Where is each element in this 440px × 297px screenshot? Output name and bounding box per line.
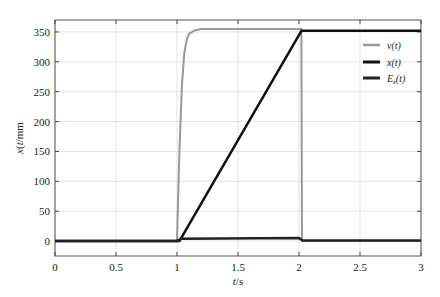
x-axis-label: t/s — [233, 275, 243, 287]
y-tick-label: 200 — [34, 116, 51, 128]
x-tick-label: 0 — [52, 261, 58, 273]
y-tick-label: 300 — [34, 56, 51, 68]
y-tick-label: 150 — [34, 145, 51, 157]
y-tick-label: 250 — [34, 86, 51, 98]
line-chart: 00.511.522.53050100150200250300350 t/s x… — [0, 0, 440, 297]
x-tick-label: 1.5 — [231, 261, 245, 273]
axis-ticks: 00.511.522.53050100150200250300350 — [34, 20, 425, 273]
legend-label-v: v(t) — [387, 40, 402, 52]
y-tick-label: 100 — [34, 175, 51, 187]
legend-label-e: Ez(t) — [386, 73, 406, 86]
x-tick-label: 2 — [296, 261, 302, 273]
x-tick-label: 0.5 — [109, 261, 123, 273]
y-tick-label: 0 — [45, 235, 51, 247]
legend: v(t) x(t) Ez(t) — [363, 40, 406, 86]
x-tick-label: 3 — [418, 261, 424, 273]
y-tick-label: 350 — [34, 26, 51, 38]
x-tick-label: 1 — [174, 261, 180, 273]
y-axis-label: x(t/mm — [13, 122, 26, 155]
legend-label-x: x(t) — [386, 57, 402, 69]
x-tick-label: 2.5 — [353, 261, 367, 273]
y-tick-label: 50 — [39, 205, 51, 217]
